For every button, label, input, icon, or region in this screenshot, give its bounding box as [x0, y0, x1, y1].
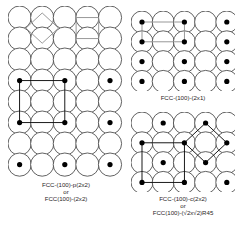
substrate-atom-circle — [195, 70, 217, 91]
figure-root: FCC-(100)-p(2x2) or FCC(100)-(2x2) FCC-(… — [0, 0, 243, 236]
adsorbate-atom-dot — [161, 160, 166, 165]
substrate-atom-circle — [152, 171, 174, 192]
substrate-atom-circle — [216, 112, 235, 134]
caption-line: FCC(100)-(2x2) — [8, 195, 124, 202]
adsorbate-atom-dot — [182, 19, 187, 24]
adsorbate-atom-dot — [62, 78, 67, 83]
adsorbate-atom-dot — [139, 59, 144, 64]
substrate-atom-circle — [31, 48, 54, 71]
adsorbate-atom-dot — [62, 120, 67, 125]
adsorbate-atom-dot — [182, 79, 187, 84]
panel-p2x2-diagram — [8, 6, 124, 178]
caption-p2x2: FCC-(100)-p(2x2) or FCC(100)-(2x2) — [8, 181, 124, 203]
substrate-atom-circle — [195, 171, 217, 192]
caption-line: FCC-(100)-(2x1) — [131, 94, 235, 101]
substrate-atom-circle — [76, 48, 99, 71]
adsorbate-atom-dot — [161, 120, 166, 125]
caption-2x1: FCC-(100)-(2x1) — [131, 94, 235, 101]
adsorbate-atom-dot — [224, 39, 229, 44]
substrate-atom-circle — [98, 90, 121, 113]
substrate-atom-circle — [98, 6, 121, 29]
adsorbate-atom-dot — [107, 120, 112, 125]
caption-line: FCC-(100)-p(2x2) — [8, 181, 124, 188]
adsorbate-atom-dot — [139, 79, 144, 84]
adsorbate-atom-dot — [224, 140, 229, 145]
panel-fcc-100-c2x2: FCC-(100)-c(2x2) or FCC(100)-(√2x√2)R45 — [131, 112, 235, 217]
adsorbate-atom-dot — [182, 140, 187, 145]
adsorbate-atom-dot — [139, 140, 144, 145]
adsorbate-atom-dot — [17, 78, 22, 83]
substrate-atom-circle — [98, 132, 121, 155]
adsorbate-atom-dot — [62, 162, 67, 167]
panel-fcc-100-p2x2: FCC-(100)-p(2x2) or FCC(100)-(2x2) — [8, 6, 124, 203]
panel-c2x2-diagram — [131, 112, 235, 192]
panel-fcc-100-2x1: FCC-(100)-(2x1) — [131, 11, 235, 101]
substrate-atom-circle — [31, 132, 54, 155]
adsorbate-atom-dot — [139, 19, 144, 24]
adsorbate-atom-dot — [139, 180, 144, 185]
substrate-atom-circle — [152, 70, 174, 91]
substrate-atom-circle — [31, 6, 54, 29]
substrate-atom-circle — [195, 51, 217, 73]
adsorbate-atom-dot — [224, 180, 229, 185]
substrate-atom-circle — [98, 48, 121, 71]
substrate-atom-circle — [76, 69, 99, 92]
substrate-atom-circle — [31, 153, 54, 176]
adsorbate-atom-dot — [182, 39, 187, 44]
substrate-atom-circle — [76, 153, 99, 176]
substrate-atom-circle — [53, 6, 76, 29]
substrate-atom-circle — [8, 27, 31, 50]
adsorbate-atom-dot — [17, 162, 22, 167]
substrate-atom-circles — [131, 112, 235, 192]
substrate-atom-circle — [76, 111, 99, 134]
substrate-atom-circle — [53, 48, 76, 71]
adsorbate-atom-dot — [17, 120, 22, 125]
adsorbate-atom-dot — [224, 59, 229, 64]
substrate-atom-circle — [53, 27, 76, 50]
substrate-atom-circle — [8, 48, 31, 71]
adsorbate-atom-dot — [224, 79, 229, 84]
panel-2x1-diagram — [131, 11, 235, 91]
caption-c2x2: FCC-(100)-c(2x2) or FCC(100)-(√2x√2)R45 — [131, 195, 235, 217]
substrate-atom-circle — [131, 112, 153, 134]
caption-line: FCC(100)-(√2x√2)R45 — [131, 209, 235, 216]
adsorbate-atom-dot — [203, 160, 208, 165]
adsorbate-atom-dot — [224, 19, 229, 24]
substrate-atom-circle — [195, 31, 217, 53]
substrate-atom-circle — [173, 112, 195, 134]
substrate-atom-circle — [8, 132, 31, 155]
substrate-atom-circle — [195, 132, 217, 154]
substrate-atom-circle — [31, 27, 54, 50]
substrate-atom-circle — [31, 90, 54, 113]
adsorbate-atom-dot — [182, 59, 187, 64]
substrate-atom-circle — [195, 11, 217, 33]
adsorbate-atom-dot — [182, 180, 187, 185]
adsorbate-atom-dot — [203, 120, 208, 125]
substrate-atom-circle — [216, 152, 235, 174]
caption-line: or — [131, 202, 235, 209]
substrate-atom-circle — [8, 6, 31, 29]
substrate-atom-circle — [152, 51, 174, 73]
substrate-atom-circle — [53, 132, 76, 155]
substrate-atom-circle — [76, 90, 99, 113]
adsorbate-atom-dot — [139, 39, 144, 44]
substrate-atom-circle — [76, 132, 99, 155]
adsorbate-atom-dot — [107, 78, 112, 83]
adsorbate-atom-dot — [107, 162, 112, 167]
substrate-atom-circle — [98, 27, 121, 50]
caption-line: FCC-(100)-c(2x2) — [131, 195, 235, 202]
caption-line: or — [8, 188, 124, 195]
